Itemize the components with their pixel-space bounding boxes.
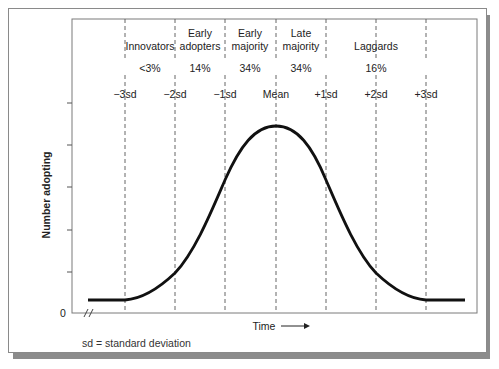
- category-early-majority-label1: Early: [238, 27, 263, 39]
- category-early-adopters-label2: adopters: [180, 40, 221, 52]
- category-late-majority-share: 34%: [290, 62, 311, 74]
- sd-label-minus1: −1sd: [213, 88, 236, 100]
- sd-label-mean: Mean: [263, 88, 289, 100]
- x-axis-label: Time: [253, 320, 276, 332]
- footnote: sd = standard deviation: [82, 337, 191, 349]
- y-ticks: [67, 103, 72, 272]
- y-axis-label: Number adopting: [40, 152, 52, 239]
- category-laggards-share: 16%: [365, 62, 386, 74]
- category-innovators-label: Innovators: [125, 40, 174, 52]
- category-early-adopters-share: 14%: [189, 62, 210, 74]
- category-innovators-share: <3%: [139, 62, 160, 74]
- category-early-majority-share: 34%: [239, 62, 260, 74]
- sd-label-minus2: −2sd: [163, 88, 186, 100]
- category-late-majority-label2: majority: [283, 40, 321, 52]
- time-arrow-icon: [281, 323, 310, 329]
- sd-label-plus3: +3sd: [414, 88, 437, 100]
- category-laggards-label: Laggards: [354, 40, 398, 52]
- adoption-chart: Innovators <3% Early adopters 14% Early …: [0, 0, 499, 369]
- sd-label-minus3: −3sd: [113, 88, 136, 100]
- sd-label-plus1: +1sd: [314, 88, 337, 100]
- y-origin-label: 0: [60, 307, 66, 319]
- category-late-majority-label1: Late: [291, 27, 312, 39]
- adoption-curve: [88, 126, 465, 300]
- category-early-majority-label2: majority: [232, 40, 270, 52]
- sd-label-plus2: +2sd: [364, 88, 387, 100]
- category-early-adopters-label1: Early: [188, 27, 213, 39]
